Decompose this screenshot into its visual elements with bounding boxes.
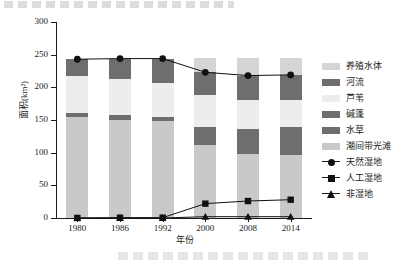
data-point-marker (117, 55, 124, 62)
legend-swatch (322, 63, 340, 70)
legend-label: 非湿地 (346, 189, 373, 199)
legend-swatch (322, 143, 340, 150)
legend-label: 河流 (346, 77, 364, 87)
legend-item[interactable]: 天然湿地 (322, 154, 404, 170)
legend-swatch (322, 95, 340, 102)
x-axis-title: 年份 (140, 235, 230, 245)
legend-swatch (322, 127, 340, 134)
data-point-marker (287, 197, 293, 203)
chart-figure: 050100150200250300 198019861992200020082… (0, 0, 404, 263)
legend-item[interactable]: 水草 (322, 122, 404, 138)
legend-line-marker-icon (322, 173, 340, 183)
legend-marker-triangle-icon (327, 190, 335, 198)
data-point-marker (202, 200, 208, 206)
legend-line-marker-icon (322, 189, 340, 199)
line-path (77, 59, 290, 76)
legend-line-marker-icon (322, 157, 340, 167)
legend-item[interactable]: 碱蓬 (322, 106, 404, 122)
data-point-marker (74, 56, 81, 63)
chart-legend: 养殖水体河流芦苇碱蓬水草潮间带光滩天然湿地人工湿地非湿地 (322, 58, 404, 202)
legend-label: 养殖水体 (346, 61, 382, 71)
data-point-marker (159, 55, 166, 62)
legend-label: 潮间带光滩 (346, 141, 391, 151)
legend-label: 天然湿地 (346, 157, 382, 167)
data-point-marker (287, 72, 294, 79)
data-point-marker (245, 72, 252, 79)
legend-label: 人工湿地 (346, 173, 382, 183)
legend-label: 碱蓬 (346, 109, 364, 119)
legend-marker-square-icon (328, 175, 335, 182)
legend-item[interactable]: 潮间带光滩 (322, 138, 404, 154)
legend-label: 水草 (346, 125, 364, 135)
legend-item[interactable]: 芦苇 (322, 90, 404, 106)
legend-swatch (322, 79, 340, 86)
legend-label: 芦苇 (346, 93, 364, 103)
legend-item[interactable]: 非湿地 (322, 186, 404, 202)
data-point-marker (202, 69, 209, 76)
y-axis-title: 面积(km²) (19, 60, 29, 140)
legend-swatch (322, 111, 340, 118)
data-point-marker (245, 198, 251, 204)
legend-item[interactable]: 河流 (322, 74, 404, 90)
legend-marker-circle-icon (328, 159, 335, 166)
legend-item[interactable]: 养殖水体 (322, 58, 404, 74)
line-path (77, 200, 290, 218)
legend-item[interactable]: 人工湿地 (322, 170, 404, 186)
